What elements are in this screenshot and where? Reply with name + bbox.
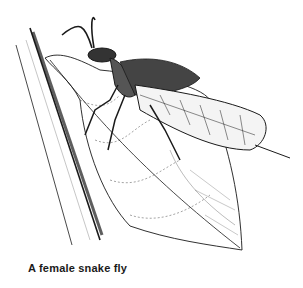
snake-fly-illustration bbox=[0, 0, 303, 288]
image-caption: A female snake fly bbox=[28, 262, 127, 274]
